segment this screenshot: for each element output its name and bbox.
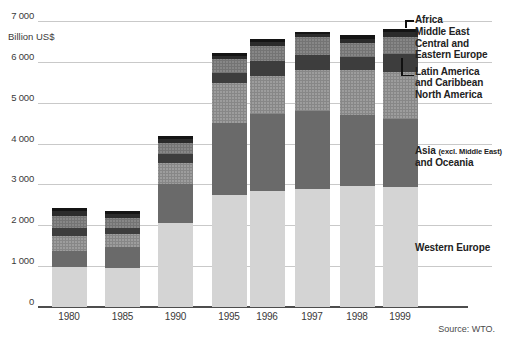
- bar-segment: [340, 115, 375, 187]
- bar-1999: [383, 0, 418, 307]
- y-tick-label: 4 000: [0, 133, 34, 144]
- legend-label-central-eastern-europe: Central andEastern Europe: [415, 39, 488, 60]
- bar-segment: [105, 214, 140, 218]
- bar-segment: [212, 59, 247, 72]
- bar-segment: [212, 123, 247, 195]
- bar-1990: [158, 0, 193, 307]
- x-tick-label-1996: 1996: [245, 311, 289, 322]
- x-tick-label-1980: 1980: [47, 311, 91, 322]
- bar-segment: [105, 218, 140, 228]
- bar-segment: [158, 136, 193, 138]
- bar-segment: [250, 76, 285, 114]
- bar-segment: [383, 119, 418, 187]
- bar-segment: [105, 234, 140, 247]
- bar-segment: [52, 211, 87, 215]
- bar-1997: [295, 0, 330, 307]
- legend-label-latin-america: Latin Americaand Caribbean: [415, 67, 483, 88]
- stacked-bar-chart: 01 0002 0003 0004 0005 0006 0007 0001980…: [0, 0, 506, 342]
- bar-segment: [250, 61, 285, 76]
- bar-segment: [383, 54, 418, 72]
- bar-segment: [383, 29, 418, 32]
- bar-1998: [340, 0, 375, 307]
- bar-segment: [158, 184, 193, 223]
- legend-label-asia-oceania: Asia (excl. Middle East) and Oceania: [415, 146, 502, 168]
- bar-segment: [212, 53, 247, 56]
- bar-1985: [105, 0, 140, 307]
- bar-segment: [105, 268, 140, 307]
- bar-segment: [383, 37, 418, 54]
- bar-segment: [52, 251, 87, 268]
- y-tick-label: 7 000: [0, 10, 34, 21]
- bar-segment: [158, 163, 193, 185]
- bar-segment: [158, 139, 193, 143]
- bar-1996: [250, 0, 285, 307]
- bar-segment: [340, 186, 375, 307]
- y-tick-label: 1 000: [0, 255, 34, 266]
- y-tick-label: 3 000: [0, 173, 34, 184]
- bar-segment: [340, 70, 375, 115]
- y-axis-title: Billion US$: [8, 31, 54, 42]
- bar-segment: [383, 32, 418, 37]
- latin-america-leader-line-vertical: [401, 58, 403, 76]
- x-tick-label-1998: 1998: [335, 311, 379, 322]
- x-tick-label-1985: 1985: [101, 311, 145, 322]
- x-tick-label-1997: 1997: [290, 311, 334, 322]
- bar-segment: [52, 236, 87, 251]
- bar-segment: [105, 211, 140, 214]
- legend-label-middle-east: Middle East: [415, 27, 469, 38]
- bar-segment: [105, 228, 140, 235]
- bar-segment: [340, 43, 375, 56]
- y-tick-label: 2 000: [0, 214, 34, 225]
- bar-segment: [158, 143, 193, 154]
- x-tick-label-1990: 1990: [154, 311, 198, 322]
- y-tick-label: 5 000: [0, 92, 34, 103]
- bar-segment: [340, 39, 375, 44]
- bar-segment: [295, 32, 330, 34]
- legend-label-north-america: North America: [415, 90, 482, 101]
- bar-segment: [295, 34, 330, 37]
- bar-segment: [340, 57, 375, 70]
- bar-segment: [250, 114, 285, 191]
- bar-segment: [212, 56, 247, 60]
- bar-segment: [52, 216, 87, 229]
- bar-segment: [105, 247, 140, 267]
- bar-segment: [212, 73, 247, 83]
- bar-segment: [250, 191, 285, 307]
- bar-segment: [52, 208, 87, 211]
- bar-segment: [212, 83, 247, 123]
- bar-segment: [250, 39, 285, 42]
- bar-segment: [383, 187, 418, 307]
- bar-segment: [295, 111, 330, 189]
- bar-segment: [383, 72, 418, 119]
- bar-1995: [212, 0, 247, 307]
- bar-segment: [212, 195, 247, 307]
- bar-segment: [158, 154, 193, 163]
- bar-segment: [52, 228, 87, 235]
- legend-label-africa: Africa: [415, 15, 443, 26]
- y-tick-label: 0: [0, 296, 34, 307]
- bar-1980: [52, 0, 87, 307]
- bar-segment: [295, 37, 330, 55]
- bar-segment: [295, 70, 330, 111]
- source-note: Source: WTO.: [438, 324, 495, 334]
- bar-segment: [295, 55, 330, 70]
- bar-segment: [52, 267, 87, 307]
- legend-label-western-europe: Western Europe: [415, 243, 490, 254]
- africa-leader-line-vertical: [405, 20, 407, 28]
- bar-segment: [158, 223, 193, 307]
- bar-segment: [250, 42, 285, 46]
- bar-segment: [340, 35, 375, 38]
- latin-america-leader-line-horizontal: [401, 75, 414, 77]
- bar-segment: [295, 189, 330, 307]
- y-tick-label: 6 000: [0, 51, 34, 62]
- x-tick-label-1999: 1999: [378, 311, 422, 322]
- bar-segment: [250, 46, 285, 62]
